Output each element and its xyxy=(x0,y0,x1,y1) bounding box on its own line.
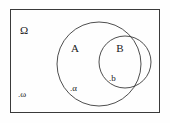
set-b-circle xyxy=(99,36,151,88)
point-b-label: .b xyxy=(109,73,116,83)
sample-space-rect xyxy=(11,10,160,113)
point-omega-label: .ω xyxy=(18,89,26,99)
point-alpha-label: .α xyxy=(70,83,77,93)
set-diagram: Ω A B .α .b .ω xyxy=(0,0,170,123)
set-b-label: B xyxy=(116,42,123,54)
set-a-label: A xyxy=(71,42,79,54)
diagram-canvas: Ω A B .α .b .ω xyxy=(0,0,170,123)
sample-space-label: Ω xyxy=(20,24,28,36)
